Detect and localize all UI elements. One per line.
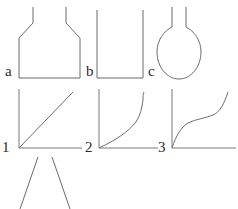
vessel-b-outline: [97, 10, 143, 78]
graph-3-axes: [172, 89, 236, 148]
vessel-b-label: b: [86, 63, 94, 79]
graph-1-curve: [19, 92, 73, 148]
vessel-a-label: a: [5, 63, 12, 79]
graph-2-curve: [99, 92, 144, 148]
figure-container: a b c 1 2 3: [0, 0, 238, 209]
graph-2-label: 2: [85, 139, 93, 155]
graph-3-label: 3: [158, 139, 166, 155]
vessel-and-graph-diagram: a b c 1 2 3: [0, 0, 238, 209]
graph-2-axes: [99, 89, 158, 148]
graph-1-axes: [19, 89, 82, 148]
graph-1-label: 1: [2, 139, 10, 155]
vessel-c-label: c: [148, 63, 155, 79]
vessel-c-outline: [157, 7, 201, 79]
vessel-c: [157, 7, 201, 79]
graph-3-curve: [172, 92, 228, 148]
cropped-funnel-right-wall: [52, 157, 70, 209]
cropped-funnel-left-wall: [20, 157, 38, 209]
graph-1: [19, 89, 82, 148]
vessel-b: [97, 10, 143, 78]
vessel-a: [19, 7, 80, 78]
vessel-a-outline: [19, 7, 80, 78]
graph-3: [172, 89, 236, 148]
cropped-funnel-shape: [20, 157, 70, 209]
graph-2: [99, 89, 158, 148]
